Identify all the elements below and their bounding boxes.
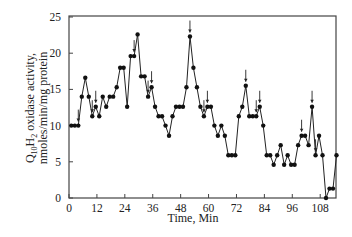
data-point bbox=[320, 153, 324, 157]
data-point bbox=[254, 114, 258, 118]
data-point bbox=[212, 123, 216, 127]
y-tick-label: 15 bbox=[50, 83, 62, 95]
data-point bbox=[83, 76, 87, 80]
data-point bbox=[233, 153, 237, 157]
data-point bbox=[303, 134, 307, 138]
data-point bbox=[149, 85, 153, 89]
data-point bbox=[121, 65, 125, 69]
line-chart: 012243648607284961080510152025 Time, Min… bbox=[0, 0, 352, 237]
data-series bbox=[69, 32, 339, 200]
x-tick-label: 24 bbox=[119, 202, 131, 214]
data-point bbox=[285, 153, 289, 157]
data-point bbox=[282, 162, 286, 166]
data-point bbox=[216, 134, 220, 138]
x-tick-label: 96 bbox=[287, 202, 299, 214]
data-point bbox=[313, 153, 317, 157]
data-point bbox=[237, 114, 241, 118]
data-point bbox=[163, 123, 167, 127]
arrow-down-icon bbox=[188, 30, 192, 33]
data-point bbox=[114, 85, 118, 89]
data-point bbox=[153, 105, 157, 109]
x-tick-label: 72 bbox=[231, 202, 243, 214]
data-point bbox=[142, 74, 146, 78]
x-tick-label: 36 bbox=[147, 202, 159, 214]
data-point bbox=[160, 114, 164, 118]
data-point bbox=[111, 94, 115, 98]
data-point bbox=[271, 162, 275, 166]
data-point bbox=[209, 105, 213, 109]
y-axis-title: Q10H2 oxidase activity, nmoles/min/mg pr… bbox=[23, 52, 50, 164]
data-point bbox=[223, 134, 227, 138]
y-tick-label: 5 bbox=[55, 156, 61, 168]
x-tick-label: 108 bbox=[312, 202, 330, 214]
data-point bbox=[94, 105, 98, 109]
data-point bbox=[167, 134, 171, 138]
data-point bbox=[240, 105, 244, 109]
data-point bbox=[146, 94, 150, 98]
arrow-down-icon bbox=[77, 119, 81, 122]
y-tick-label: 0 bbox=[55, 192, 61, 204]
data-point bbox=[181, 105, 185, 109]
arrow-down-icon bbox=[206, 100, 210, 103]
x-tick-label: 12 bbox=[91, 202, 103, 214]
data-point bbox=[90, 114, 94, 118]
data-point bbox=[317, 134, 321, 138]
data-point bbox=[261, 123, 265, 127]
data-point bbox=[198, 105, 202, 109]
data-point bbox=[278, 143, 282, 147]
data-point bbox=[275, 153, 279, 157]
data-point bbox=[104, 105, 108, 109]
data-point bbox=[296, 143, 300, 147]
data-point bbox=[135, 32, 139, 36]
x-tick-label: 84 bbox=[259, 202, 271, 214]
data-point bbox=[87, 94, 91, 98]
arrow-down-icon bbox=[258, 100, 262, 103]
data-point bbox=[101, 94, 105, 98]
data-point bbox=[202, 114, 206, 118]
data-point bbox=[188, 34, 192, 38]
data-point bbox=[132, 54, 136, 58]
data-point bbox=[80, 94, 84, 98]
data-point bbox=[195, 85, 199, 89]
data-point bbox=[331, 186, 335, 190]
data-point bbox=[324, 196, 328, 200]
y-tick-label: 10 bbox=[50, 120, 62, 132]
data-point bbox=[184, 85, 188, 89]
arrow-down-icon bbox=[300, 129, 304, 132]
data-point bbox=[310, 105, 314, 109]
data-point bbox=[125, 105, 129, 109]
arrow-down-icon bbox=[150, 80, 154, 83]
x-axis-title: Time, Min bbox=[168, 211, 219, 225]
data-point bbox=[76, 123, 80, 127]
x-tick-label: 0 bbox=[66, 202, 72, 214]
data-point bbox=[292, 162, 296, 166]
y-axis-title-line2: nmoles/min/mg protein bbox=[36, 52, 50, 164]
arrow-down-icon bbox=[310, 100, 314, 103]
data-point bbox=[306, 143, 310, 147]
arrow-down-icon bbox=[94, 100, 98, 103]
data-point bbox=[97, 114, 101, 118]
data-point bbox=[258, 105, 262, 109]
y-tick-label: 25 bbox=[50, 11, 62, 23]
data-point bbox=[268, 153, 272, 157]
y-tick-label: 20 bbox=[50, 47, 62, 59]
data-point bbox=[191, 65, 195, 69]
arrow-down-icon bbox=[244, 79, 248, 82]
data-point bbox=[219, 123, 223, 127]
data-point bbox=[170, 114, 174, 118]
data-point bbox=[334, 153, 338, 157]
data-point bbox=[244, 84, 248, 88]
